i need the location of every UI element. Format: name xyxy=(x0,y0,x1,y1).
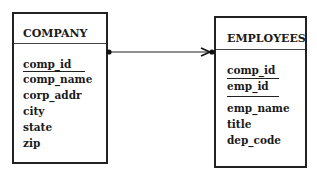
relationship-connector xyxy=(0,0,317,173)
one-end-dot-icon xyxy=(106,49,111,54)
